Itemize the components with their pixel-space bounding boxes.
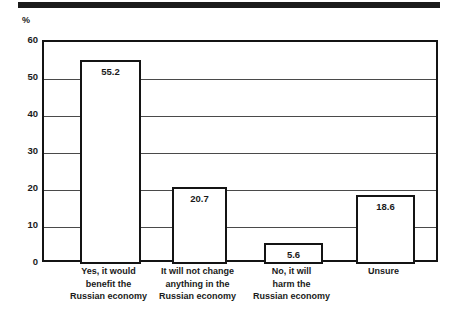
y-axis-tick-label: 10: [4, 220, 38, 230]
bar: 55.2: [80, 60, 141, 264]
y-axis-tick-labels: 0102030405060: [0, 40, 38, 262]
bar: 5.6: [264, 243, 323, 264]
x-axis-label-line: Russian economy: [237, 290, 347, 303]
x-axis-label-line: harm the: [237, 278, 347, 291]
bar-value-label: 5.6: [266, 249, 321, 260]
y-axis-tick-label: 20: [4, 183, 38, 193]
y-axis-tick-label: 40: [4, 109, 38, 119]
bar-value-label: 18.6: [358, 201, 413, 212]
bar-value-label: 55.2: [82, 66, 139, 77]
x-axis-category-labels: Yes, it wouldbenefit theRussian economyI…: [42, 265, 438, 321]
y-axis-tick-label: 50: [4, 72, 38, 82]
bar-value-label: 20.7: [174, 193, 225, 204]
bar: 20.7: [172, 187, 227, 264]
y-axis-tick-label: 30: [4, 146, 38, 156]
y-axis-tick-label: 0: [4, 257, 38, 267]
bar-chart-figure: % 0102030405060 55.220.75.618.6 Yes, it …: [0, 0, 461, 324]
top-divider-rule: [18, 2, 440, 8]
y-axis-tick-label: 60: [4, 35, 38, 45]
x-axis-label-line: Unsure: [329, 265, 439, 278]
plot-frame: 55.220.75.618.6: [42, 40, 438, 262]
plot-area: 55.220.75.618.6: [44, 42, 436, 260]
bar: 18.6: [356, 195, 415, 264]
x-axis-category-label: Unsure: [329, 265, 439, 278]
y-axis-unit-label: %: [22, 15, 30, 26]
